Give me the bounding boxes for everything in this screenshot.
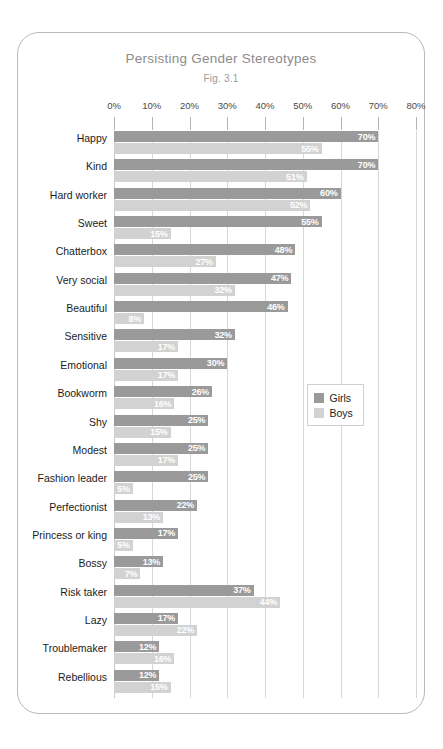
bar-value-label: 13% bbox=[143, 512, 160, 522]
category-label: Perfectionist bbox=[15, 501, 107, 513]
bar-boys: 5% bbox=[114, 483, 133, 494]
bar-row: Sensitive32%17% bbox=[114, 329, 416, 357]
bar-value-label: 17% bbox=[158, 370, 175, 380]
bar-value-label: 70% bbox=[358, 160, 375, 170]
tickmark-50 bbox=[303, 117, 304, 130]
bar-boys: 7% bbox=[114, 568, 140, 579]
bar-girls: 25% bbox=[114, 415, 208, 426]
bar-girls: 60% bbox=[114, 188, 341, 199]
chart-subtitle: Fig. 3.1 bbox=[18, 73, 424, 84]
bar-girls: 70% bbox=[114, 159, 378, 170]
bar-row: Princess or king17%5% bbox=[114, 528, 416, 556]
bar-row: Perfectionist22%13% bbox=[114, 500, 416, 528]
bar-girls: 17% bbox=[114, 613, 178, 624]
bar-boys: 15% bbox=[114, 427, 171, 438]
x-tick-label: 40% bbox=[255, 100, 274, 111]
x-tick-label: 80% bbox=[406, 100, 425, 111]
category-label: Chatterbox bbox=[15, 245, 107, 257]
legend-label: Boys bbox=[330, 407, 353, 419]
bar-value-label: 7% bbox=[125, 569, 138, 579]
bar-value-label: 17% bbox=[158, 613, 175, 623]
bar-boys: 51% bbox=[114, 171, 307, 182]
bar-value-label: 15% bbox=[150, 229, 167, 239]
bar-boys: 52% bbox=[114, 200, 310, 211]
bar-girls: 48% bbox=[114, 244, 295, 255]
category-label: Fashion leader bbox=[15, 472, 107, 484]
bar-boys: 16% bbox=[114, 398, 174, 409]
chart-legend: GirlsBoys bbox=[307, 384, 364, 426]
bar-row: Fashion leader25%5% bbox=[114, 471, 416, 499]
bar-girls: 13% bbox=[114, 556, 163, 567]
bar-row: Bookworm26%16% bbox=[114, 386, 416, 414]
legend-entry: Boys bbox=[314, 405, 353, 420]
bar-value-label: 17% bbox=[158, 528, 175, 538]
bar-value-label: 5% bbox=[117, 484, 130, 494]
bar-boys: 17% bbox=[114, 455, 178, 466]
legend-entry: Girls bbox=[314, 390, 353, 405]
bar-boys: 16% bbox=[114, 653, 174, 664]
bar-value-label: 5% bbox=[117, 540, 130, 550]
category-label: Troublemaker bbox=[15, 642, 107, 654]
bar-girls: 25% bbox=[114, 443, 208, 454]
bar-boys: 32% bbox=[114, 285, 235, 296]
x-axis-ticks: 0%10%20%30%40%50%60%70%80% bbox=[114, 113, 416, 131]
tickmark-80 bbox=[416, 117, 417, 130]
x-tick-label: 0% bbox=[107, 100, 121, 111]
bar-value-label: 13% bbox=[143, 557, 160, 567]
bar-value-label: 22% bbox=[177, 625, 194, 635]
category-label: Modest bbox=[15, 444, 107, 456]
bar-girls: 55% bbox=[114, 216, 322, 227]
bar-row: Rebellious12%15% bbox=[114, 670, 416, 698]
bar-value-label: 37% bbox=[233, 585, 250, 595]
bar-girls: 30% bbox=[114, 358, 227, 369]
legend-swatch-icon bbox=[314, 408, 324, 418]
bar-value-label: 55% bbox=[301, 217, 318, 227]
bar-value-label: 52% bbox=[290, 200, 307, 210]
bar-row: Hard worker60%52% bbox=[114, 188, 416, 216]
bar-value-label: 47% bbox=[271, 273, 288, 283]
legend-swatch-icon bbox=[314, 393, 324, 403]
bar-boys: 55% bbox=[114, 143, 322, 154]
bar-value-label: 25% bbox=[188, 443, 205, 453]
bar-row: Risk taker37%44% bbox=[114, 585, 416, 613]
bar-value-label: 16% bbox=[154, 399, 171, 409]
legend-label: Girls bbox=[330, 392, 352, 404]
bar-value-label: 25% bbox=[188, 415, 205, 425]
x-tick-label: 50% bbox=[293, 100, 312, 111]
category-label: Emotional bbox=[15, 359, 107, 371]
category-label: Princess or king bbox=[15, 529, 107, 541]
category-label: Sweet bbox=[15, 217, 107, 229]
chart-title: Persisting Gender Stereotypes bbox=[18, 51, 424, 66]
bar-girls: 26% bbox=[114, 386, 212, 397]
bar-girls: 47% bbox=[114, 273, 291, 284]
plot-area: 0%10%20%30%40%50%60%70%80% Happy70%55%Ki… bbox=[114, 113, 416, 698]
bar-value-label: 27% bbox=[196, 257, 213, 267]
bar-boys: 17% bbox=[114, 341, 178, 352]
category-label: Risk taker bbox=[15, 586, 107, 598]
category-label: Lazy bbox=[15, 614, 107, 626]
bar-value-label: 32% bbox=[214, 285, 231, 295]
bar-boys: 15% bbox=[114, 682, 171, 693]
bar-boys: 44% bbox=[114, 597, 280, 608]
category-label: Happy bbox=[15, 132, 107, 144]
x-tick-label: 30% bbox=[218, 100, 237, 111]
gridline-80 bbox=[416, 131, 417, 698]
bar-value-label: 60% bbox=[320, 188, 337, 198]
bar-row: Sweet55%15% bbox=[114, 216, 416, 244]
bar-girls: 32% bbox=[114, 329, 235, 340]
category-label: Sensitive bbox=[15, 330, 107, 342]
bar-value-label: 15% bbox=[150, 427, 167, 437]
bar-value-label: 51% bbox=[286, 172, 303, 182]
bar-row: Lazy17%22% bbox=[114, 613, 416, 641]
bar-row: Happy70%55% bbox=[114, 131, 416, 159]
tickmark-70 bbox=[378, 117, 379, 130]
bar-value-label: 15% bbox=[150, 682, 167, 692]
bar-value-label: 22% bbox=[177, 500, 194, 510]
bar-value-label: 44% bbox=[260, 597, 277, 607]
bar-girls: 12% bbox=[114, 641, 159, 652]
bar-girls: 46% bbox=[114, 301, 288, 312]
bar-value-label: 55% bbox=[301, 144, 318, 154]
bar-row: Kind70%51% bbox=[114, 159, 416, 187]
tickmark-40 bbox=[265, 117, 266, 130]
bar-row: Modest25%17% bbox=[114, 443, 416, 471]
